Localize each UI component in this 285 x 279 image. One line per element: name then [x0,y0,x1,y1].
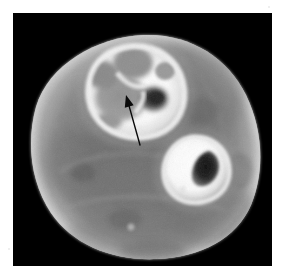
ct-scan-image [13,13,272,266]
ct-figure [0,0,285,279]
margin-speck [8,248,10,250]
margin-speck [268,6,270,8]
ct-scan-frame [13,13,272,266]
